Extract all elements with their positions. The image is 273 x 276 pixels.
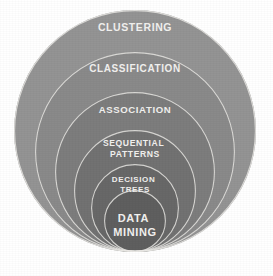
ring-label-data-mining-line2: MINING	[113, 226, 156, 238]
ring-label-decision-trees-line1: DECISION	[112, 175, 155, 184]
ring-label-sequential-patterns-line2: PATTERNS	[110, 149, 160, 159]
ring-label-association: ASSOCIATION	[99, 104, 172, 115]
ring-label-sequential-patterns: SEQUENTIAL PATTERNS	[103, 138, 167, 159]
ring-label-sequential-patterns-line1: SEQUENTIAL	[103, 138, 164, 148]
nested-circles-diagram: CLUSTERING CLASSIFICATION ASSOCIATION SE…	[0, 0, 273, 276]
ring-label-decision-trees-line2: TREES	[120, 185, 150, 194]
ring-label-classification: CLASSIFICATION	[89, 63, 181, 74]
diagram-canvas: CLUSTERING CLASSIFICATION ASSOCIATION SE…	[0, 0, 273, 276]
ring-label-clustering: CLUSTERING	[98, 21, 172, 33]
ring-label-data-mining-line1: DATA	[118, 212, 149, 224]
ring-label-data-mining: DATA MINING	[113, 212, 156, 238]
